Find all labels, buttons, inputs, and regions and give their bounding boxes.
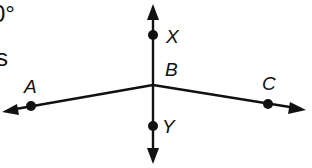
arrowhead-down-icon xyxy=(147,148,159,164)
label-y: Y xyxy=(162,116,176,137)
label-x: X xyxy=(165,26,180,47)
partial-text: s xyxy=(0,44,8,71)
point-a xyxy=(26,101,36,111)
geometry-diagram: 0° s X B Y A C xyxy=(0,0,312,168)
point-y xyxy=(148,121,158,131)
arrowhead-left-icon xyxy=(2,104,19,115)
point-c xyxy=(263,99,273,109)
arrowhead-up-icon xyxy=(147,4,159,20)
label-b: B xyxy=(165,59,178,80)
label-c: C xyxy=(262,73,276,94)
partial-angle-text: 0° xyxy=(0,0,15,27)
point-x xyxy=(148,30,158,40)
label-a: A xyxy=(23,76,37,97)
arrowhead-right-icon xyxy=(288,102,306,114)
